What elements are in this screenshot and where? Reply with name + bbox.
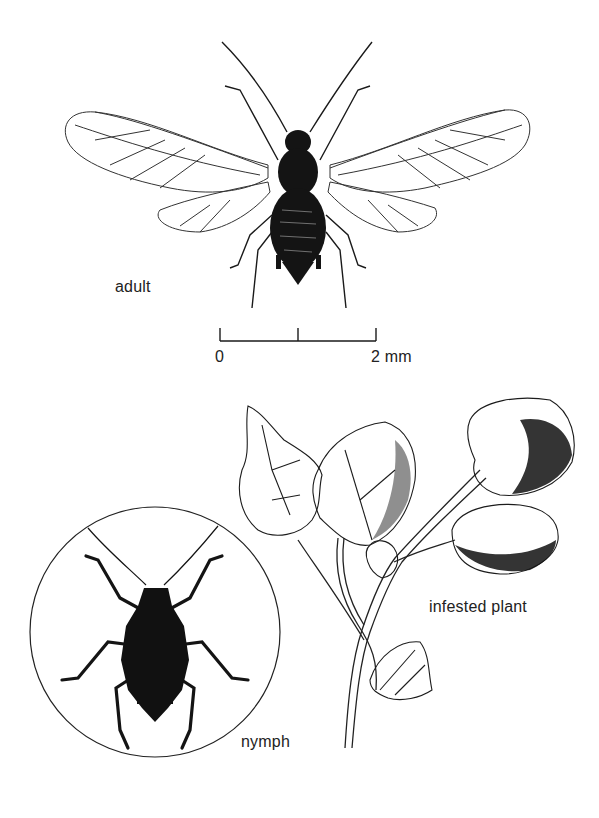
infested-plant-illustration xyxy=(0,0,599,818)
infested-plant-label: infested plant xyxy=(429,598,527,616)
plant-shading xyxy=(372,419,572,571)
plant-leaves xyxy=(239,398,574,699)
